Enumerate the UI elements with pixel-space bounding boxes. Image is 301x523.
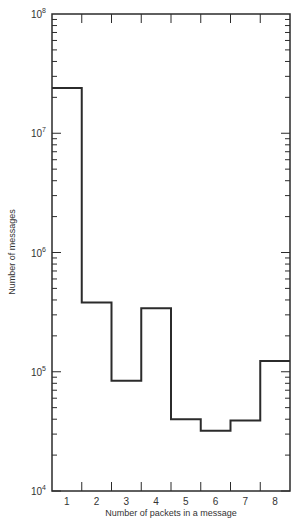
y-tick-label: 107 bbox=[31, 126, 46, 139]
x-tick-label: 6 bbox=[213, 496, 219, 507]
x-axis-tick-labels: 12345678 bbox=[64, 496, 278, 507]
x-axis-label: Number of packets in a message bbox=[105, 508, 237, 518]
y-tick-label: 106 bbox=[31, 246, 46, 259]
histogram-step-line bbox=[52, 88, 290, 431]
x-tick-label: 8 bbox=[272, 496, 278, 507]
x-tick-label: 1 bbox=[64, 496, 70, 507]
x-tick-label: 5 bbox=[183, 496, 189, 507]
y-tick-label: 105 bbox=[31, 365, 46, 378]
x-tick-label: 4 bbox=[153, 496, 159, 507]
x-tick-label: 7 bbox=[243, 496, 249, 507]
x-tick-label: 2 bbox=[94, 496, 100, 507]
y-tick-label: 108 bbox=[31, 7, 46, 20]
y-tick-label: 104 bbox=[31, 484, 46, 497]
x-tick-label: 3 bbox=[124, 496, 130, 507]
y-axis-tick-labels: 104105106107108 bbox=[31, 7, 46, 497]
y-axis-label: Number of messages bbox=[7, 209, 17, 295]
histogram-chart: 104105106107108 12345678 Number of packe… bbox=[0, 0, 301, 523]
